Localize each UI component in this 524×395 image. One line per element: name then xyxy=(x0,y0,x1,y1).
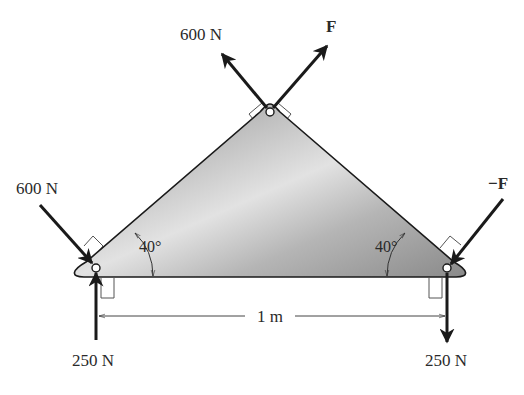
triangle-plate-free-body-diagram: 40° 40° 600 N F 600 N −F 250 N 250 N 1 m xyxy=(0,0,524,395)
dimension-label: 1 m xyxy=(257,307,283,326)
pin-left xyxy=(92,264,100,272)
pin-top xyxy=(266,108,274,116)
right-angle-marker-right-incoming xyxy=(440,236,461,248)
label-top-f: F xyxy=(326,17,336,36)
right-angle-marker-left-reaction xyxy=(101,278,114,298)
label-left-600n: 600 N xyxy=(16,179,58,198)
label-top-600n: 600 N xyxy=(180,25,222,44)
angle-label-right: 40° xyxy=(375,238,397,255)
label-right-250n: 250 N xyxy=(425,351,467,370)
triangular-plate xyxy=(74,104,465,277)
pin-right xyxy=(443,264,451,272)
label-right-neg-f: −F xyxy=(488,174,508,193)
force-arrow-top-f xyxy=(273,46,327,108)
force-arrow-right-neg-f xyxy=(451,199,503,264)
force-arrow-top-600n xyxy=(222,54,267,108)
angle-label-left: 40° xyxy=(139,238,161,255)
force-arrow-left-600n xyxy=(40,205,92,263)
right-angle-marker-right-reaction xyxy=(429,278,442,298)
label-left-250n: 250 N xyxy=(72,351,114,370)
